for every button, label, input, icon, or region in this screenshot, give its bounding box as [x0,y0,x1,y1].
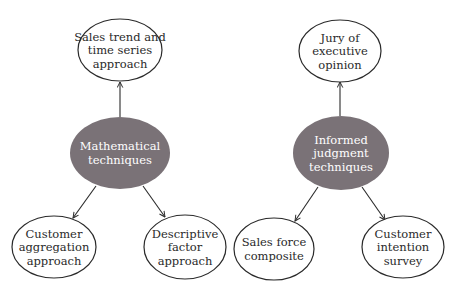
node-label-line: Sales force [242,235,307,249]
node-label-line: aggregation [19,240,90,254]
node-label-line: time series [88,43,152,57]
node-customer-intention-survey: Customerintentionsurvey [362,216,444,278]
arrow-customer-aggregation-approach [73,186,96,218]
node-label-line: judgment [311,146,369,160]
node-label-line: Customer [26,227,83,241]
node-sales-force-composite: Sales forcecomposite [234,218,314,280]
node-label-line: Informed [314,133,368,147]
node-label-line: approach [27,254,82,268]
node-label-line: Sales trend and [74,30,166,44]
node-label-line: Mathematical [80,139,161,153]
node-label-line: Customer [375,227,432,241]
hub-node-mathematical-techniques: Mathematicaltechniques [70,117,170,189]
node-label-line: opinion [318,58,362,72]
node-label-line: approach [158,254,213,268]
node-customer-aggregation-approach: Customeraggregationapproach [12,216,96,278]
arrow-descriptive-factor-approach [143,186,165,217]
node-label-line: techniques [88,153,152,167]
nodes: MathematicaltechniquesSales trend andtim… [12,19,444,280]
forecasting-techniques-diagram: MathematicaltechniquesSales trend andtim… [0,0,460,293]
arrow-sales-force-composite [295,187,318,221]
node-jury-of-executive-opinion: Jury ofexecutiveopinion [299,20,381,82]
node-label-line: approach [93,57,148,71]
hub-node-informed-judgment-techniques: Informedjudgmenttechniques [293,116,389,190]
node-sales-trend-and-time-series-approach: Sales trend andtime seriesapproach [74,19,166,81]
node-label-line: factor [168,240,203,254]
node-label-line: Descriptive [152,227,219,241]
node-label-line: techniques [309,160,373,174]
node-descriptive-factor-approach: Descriptivefactorapproach [144,215,226,279]
node-label-line: Jury of [320,31,361,45]
node-label-line: composite [244,249,304,263]
node-label-line: survey [384,254,423,268]
node-label-line: intention [377,240,430,254]
arrow-customer-intention-survey [362,187,385,220]
node-label-line: executive [312,44,368,58]
